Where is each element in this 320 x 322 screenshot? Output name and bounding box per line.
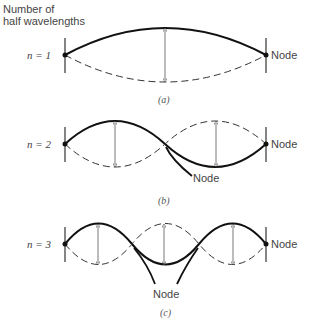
caption-a: (a)	[158, 94, 170, 105]
panel-n2	[63, 121, 269, 176]
node-label-a-right: Node	[271, 49, 297, 61]
node-label-c-right: Node	[271, 238, 297, 250]
panel-n1	[63, 28, 269, 82]
caption-c: (c)	[160, 307, 171, 318]
panel-n3	[63, 224, 269, 285]
node-label-b-middle: Node	[193, 172, 219, 184]
node-label-c-middle: Node	[153, 288, 179, 300]
n1-label: n = 1	[27, 49, 51, 61]
caption-b: (b)	[158, 195, 170, 206]
n2-label: n = 2	[27, 138, 51, 150]
n3-label: n = 3	[27, 238, 51, 250]
node-label-b-right: Node	[271, 138, 297, 150]
